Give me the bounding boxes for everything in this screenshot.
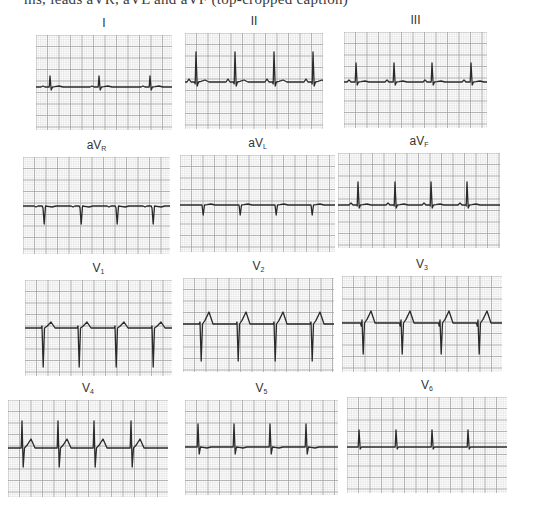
lead-label-subscript: R bbox=[101, 145, 106, 152]
lead-label: aVF bbox=[338, 134, 500, 148]
ecg-lead-panel-v1: V1 bbox=[25, 280, 172, 376]
lead-label: V3 bbox=[342, 257, 502, 271]
lead-label: V5 bbox=[185, 381, 338, 395]
ecg-lead-panel-avr: aVR bbox=[23, 157, 170, 254]
ecg-lead-panel-iii: III bbox=[344, 32, 487, 128]
ecg-grid-paper bbox=[8, 400, 168, 497]
ecg-grid-paper bbox=[344, 32, 487, 128]
lead-label: I bbox=[36, 16, 172, 30]
ecg-lead-panel-v4: V4 bbox=[8, 400, 168, 497]
lead-label-main: aV bbox=[248, 136, 263, 150]
ecg-lead-panel-v2: V2 bbox=[183, 278, 334, 372]
lead-label: aVL bbox=[180, 136, 335, 150]
ecg-grid-paper bbox=[347, 397, 507, 493]
lead-label: V4 bbox=[8, 381, 168, 395]
cropped-caption-text: ms, leads aVR, aVL and aVF (top-cropped … bbox=[24, 0, 348, 8]
lead-label-main: aV bbox=[410, 134, 425, 148]
lead-label-subscript: 6 bbox=[429, 385, 433, 392]
ecg-grid-paper bbox=[25, 280, 172, 376]
lead-label-main: aV bbox=[87, 138, 102, 152]
lead-label-main: V bbox=[421, 378, 429, 392]
lead-label: II bbox=[185, 14, 323, 28]
lead-label-main: V bbox=[256, 381, 264, 395]
lead-label-main: V bbox=[253, 259, 261, 273]
lead-label-subscript: L bbox=[263, 143, 267, 150]
ecg-lead-panel-avf: aVF bbox=[338, 153, 500, 248]
ecg-grid-paper bbox=[23, 157, 170, 254]
lead-label-main: I bbox=[102, 16, 105, 30]
ecg-grid-paper bbox=[342, 276, 502, 372]
ecg-grid-paper bbox=[185, 400, 338, 495]
ecg-trace-line bbox=[347, 430, 507, 449]
ecg-lead-panel-v6: V6 bbox=[347, 397, 507, 493]
lead-label-main: V bbox=[82, 381, 90, 395]
lead-label-subscript: 5 bbox=[264, 388, 268, 395]
lead-label-subscript: 2 bbox=[261, 266, 265, 273]
ecg-lead-panel-ii: II bbox=[185, 33, 323, 129]
ecg-grid-paper bbox=[338, 153, 500, 248]
lead-label: aVR bbox=[23, 138, 170, 152]
lead-label-subscript: 1 bbox=[101, 268, 105, 275]
lead-label: III bbox=[344, 13, 487, 27]
lead-label: V1 bbox=[25, 261, 172, 275]
lead-label-subscript: 3 bbox=[424, 264, 428, 271]
lead-label: V6 bbox=[347, 378, 507, 392]
ecg-trace-line bbox=[8, 421, 168, 467]
lead-label-main: III bbox=[410, 13, 420, 27]
lead-label-main: II bbox=[251, 14, 258, 28]
ecg-lead-panel-avl: aVL bbox=[180, 155, 335, 252]
lead-label-main: V bbox=[416, 257, 424, 271]
lead-label: V2 bbox=[183, 259, 334, 273]
ecg-lead-panel-i: I bbox=[36, 35, 172, 130]
lead-label-subscript: F bbox=[424, 141, 428, 148]
ecg-lead-panel-v5: V5 bbox=[185, 400, 338, 495]
ecg-grid-paper bbox=[36, 35, 172, 130]
ecg-grid-paper bbox=[183, 278, 334, 372]
ecg-grid-paper bbox=[180, 155, 335, 252]
lead-label-main: V bbox=[93, 261, 101, 275]
lead-label-subscript: 4 bbox=[90, 388, 94, 395]
ecg-grid-paper bbox=[185, 33, 323, 129]
ecg-lead-panel-v3: V3 bbox=[342, 276, 502, 372]
